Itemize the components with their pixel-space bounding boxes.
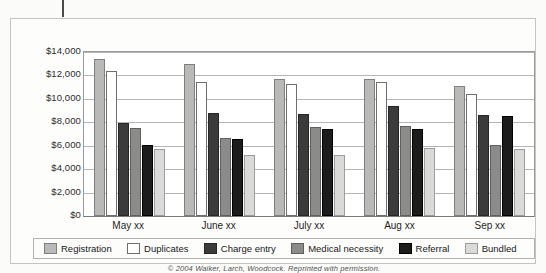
bar <box>208 113 219 216</box>
bar <box>118 123 129 216</box>
y-axis-tick-label: $6,000 <box>23 140 81 150</box>
legend-item[interactable]: Medical necessity <box>287 243 394 254</box>
bar <box>400 126 411 216</box>
y-axis-tick-label: $8,000 <box>23 116 81 126</box>
figure-frame: $0$2,000$4,000$6,000$8,000$10,000$12,000… <box>10 18 536 264</box>
plot-area <box>83 51 535 217</box>
chart-legend: RegistrationDuplicatesCharge entryMedica… <box>33 238 535 259</box>
x-axis-tick-label: Sep xx <box>445 219 535 235</box>
bar <box>232 139 243 216</box>
bar <box>388 106 399 216</box>
bar <box>130 128 141 216</box>
legend-item[interactable]: Registration <box>40 243 123 254</box>
bar <box>154 149 165 216</box>
legend-swatch-icon <box>399 243 412 254</box>
bar <box>142 145 153 216</box>
x-axis-tick-label: July xx <box>264 219 354 235</box>
y-axis: $0$2,000$4,000$6,000$8,000$10,000$12,000… <box>23 43 81 225</box>
bar-group <box>264 52 354 216</box>
bar <box>490 145 501 216</box>
bar <box>454 86 465 216</box>
bar <box>298 114 309 216</box>
legend-item[interactable]: Charge entry <box>200 243 287 254</box>
bar <box>424 148 435 216</box>
legend-swatch-icon <box>204 243 217 254</box>
legend-item[interactable]: Bundled <box>461 243 528 254</box>
legend-item[interactable]: Duplicates <box>123 243 200 254</box>
y-axis-tick-label: $12,000 <box>23 69 81 79</box>
bar <box>184 64 195 216</box>
bar-group <box>354 52 444 216</box>
y-axis-tick-label: $0 <box>23 210 81 220</box>
bar <box>322 129 333 216</box>
bar <box>244 155 255 216</box>
bar <box>274 79 285 216</box>
legend-label: Medical necessity <box>308 243 383 254</box>
bar-group <box>444 52 534 216</box>
bar <box>196 82 207 216</box>
bar <box>376 82 387 216</box>
bar <box>478 115 489 216</box>
y-axis-tick-label: $4,000 <box>23 163 81 173</box>
legend-item[interactable]: Referral <box>395 243 461 254</box>
x-axis-tick-label: Aug xx <box>354 219 444 235</box>
bar <box>364 79 375 216</box>
legend-label: Duplicates <box>144 243 188 254</box>
legend-label: Referral <box>416 243 450 254</box>
y-axis-tick-label: $14,000 <box>23 46 81 56</box>
legend-swatch-icon <box>291 243 304 254</box>
bar <box>412 129 423 216</box>
legend-swatch-icon <box>465 243 478 254</box>
bar <box>310 127 321 216</box>
bar <box>466 94 477 216</box>
bar-group <box>84 52 174 216</box>
legend-label: Charge entry <box>221 243 276 254</box>
crop-tick-mark <box>62 0 64 17</box>
bar-groups <box>84 52 534 216</box>
y-axis-tick-label: $2,000 <box>23 187 81 197</box>
legend-label: Bundled <box>482 243 517 254</box>
x-axis-tick-label: June xx <box>173 219 263 235</box>
bar <box>502 116 513 216</box>
bar <box>334 155 345 216</box>
bar <box>514 149 525 216</box>
x-axis: May xxJune xxJuly xxAug xxSep xx <box>83 219 535 235</box>
bar <box>106 71 117 216</box>
y-axis-tick-label: $10,000 <box>23 93 81 103</box>
bar <box>94 59 105 216</box>
legend-swatch-icon <box>44 243 57 254</box>
copyright-note: © 2004 Walker, Larch, Woodcock. Reprinte… <box>11 264 537 273</box>
legend-label: Registration <box>61 243 112 254</box>
bar <box>220 138 231 216</box>
legend-swatch-icon <box>127 243 140 254</box>
bar-group <box>174 52 264 216</box>
bar <box>286 84 297 216</box>
x-axis-tick-label: May xx <box>83 219 173 235</box>
